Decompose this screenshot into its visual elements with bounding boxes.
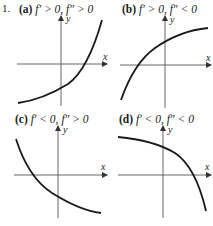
panel-c-graph: y x <box>14 124 107 218</box>
y-axis-label: y <box>65 13 71 24</box>
y-axis-label: y <box>169 14 175 25</box>
y-axis-label: y <box>62 124 68 135</box>
x-axis-label: x <box>205 52 211 63</box>
y-axis-label: y <box>167 124 173 135</box>
x-axis-label: x <box>100 161 106 172</box>
curve-increasing-concave-down <box>121 28 208 100</box>
panel-b-graph: y x <box>120 14 211 108</box>
curve-decreasing-concave-down <box>118 137 206 211</box>
x-axis-label: x <box>102 51 108 62</box>
graphs-figure: y x y x y x y x <box>0 0 213 226</box>
curve-increasing-concave-up <box>18 20 102 103</box>
panel-a-graph: y x <box>17 13 108 106</box>
curve-decreasing-concave-up <box>16 139 101 213</box>
x-axis-label: x <box>204 161 210 172</box>
panel-d-graph: y x <box>118 124 211 218</box>
